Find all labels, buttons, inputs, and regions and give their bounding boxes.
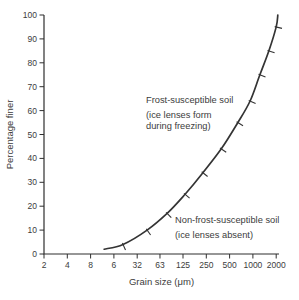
y-tick-label-80: 80	[28, 58, 38, 68]
x-tick-label-250: 250	[199, 260, 213, 270]
y-tick-label-40: 40	[28, 153, 38, 163]
y-tick-label-60: 60	[28, 106, 38, 116]
x-tick-label-16: 6	[112, 260, 117, 270]
y-tick-label-30: 30	[28, 177, 38, 187]
x-tick-label-8: 8	[88, 260, 93, 270]
x-tick-label-63: 63	[155, 260, 165, 270]
frost-susceptible-label-title: Frost-susceptible soil	[146, 95, 233, 105]
non-frost-susceptible-label-title: Non-frost-susceptible soil	[175, 215, 279, 225]
x-tick-label-500: 500	[223, 260, 237, 270]
y-tick-label-20: 20	[28, 201, 38, 211]
x-axis-title: Grain size (μm)	[129, 276, 194, 287]
x-tick-label-2: 2	[42, 260, 47, 270]
non-frost-susceptible-label-sub-0: (ice lenses absent)	[175, 230, 253, 240]
x-tick-label-125: 125	[176, 260, 190, 270]
frost-susceptible-label-sub-0: (ice lenses form	[146, 110, 212, 120]
x-tick-label-4: 4	[65, 260, 70, 270]
y-tick-label-10: 10	[28, 225, 38, 235]
grain-size-chart-svg: 0102030405060708090100248632631252505001…	[0, 0, 299, 300]
frost-susceptible-label-sub-1: during freezing)	[146, 121, 211, 131]
y-tick-label-50: 50	[28, 130, 38, 140]
x-tick-label-32: 32	[132, 260, 142, 270]
x-tick-label-1000: 1000	[243, 260, 262, 270]
y-tick-label-90: 90	[28, 34, 38, 44]
frost-susceptibility-chart: 0102030405060708090100248632631252505001…	[0, 0, 299, 300]
curve-hatch-mark	[166, 212, 171, 217]
y-axis-title: Percentage finer	[4, 100, 15, 170]
y-tick-label-100: 100	[23, 10, 37, 20]
y-tick-label-70: 70	[28, 82, 38, 92]
y-tick-label-0: 0	[32, 249, 37, 259]
x-tick-label-2000: 2000	[267, 260, 286, 270]
